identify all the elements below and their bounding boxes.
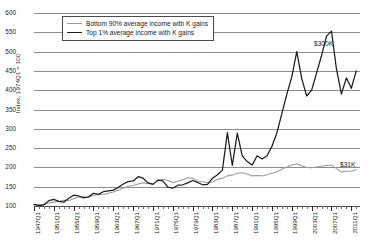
x-tick-label-1987: 1987Q1: [231, 212, 238, 234]
y-tick-label-500: 500: [0, 48, 16, 55]
y-tick-label-300: 300: [0, 125, 16, 132]
x-tick-label-1975: 1975Q1: [172, 212, 179, 234]
x-tick-1958: [89, 206, 90, 209]
y-tick-label-550: 550: [0, 29, 16, 36]
legend-item-bottom-90: Bottom 90% average income with K gains: [67, 19, 208, 28]
chart-legend: Bottom 90% average income with K gains T…: [62, 16, 214, 41]
x-tick-1987: [232, 206, 233, 211]
x-tick-1951: [54, 206, 55, 211]
x-tick-1988: [237, 206, 238, 209]
x-tick-1997: [282, 206, 283, 209]
x-tick-2006: [327, 206, 328, 209]
x-tick-1952: [59, 206, 60, 209]
series-line-bottom-90: [34, 164, 356, 205]
x-tick-2001: [302, 206, 303, 209]
x-tick-1981: [203, 206, 204, 209]
x-tick-1983: [212, 206, 213, 211]
y-axis-title: Index, 1974Q1 = 100: [14, 29, 21, 139]
y-tick-label-250: 250: [0, 144, 16, 151]
x-tick-label-1995: 1995Q1: [271, 212, 278, 234]
x-tick-label-1959: 1959Q1: [93, 212, 100, 234]
y-tick-label-350: 350: [0, 106, 16, 113]
y-tick-label-200: 200: [0, 164, 16, 171]
x-tick-1990: [247, 206, 248, 209]
x-tick-2011: [351, 206, 352, 211]
y-tick-label-100: 100: [0, 202, 16, 209]
x-tick-1973: [163, 206, 164, 209]
x-tick-1970: [148, 206, 149, 209]
annotation-300k: $300K: [314, 40, 333, 47]
y-tick-label-400: 400: [0, 87, 16, 94]
x-tick-label-1999: 1999Q1: [291, 212, 298, 234]
x-tick-1992: [257, 206, 258, 209]
x-tick-1948: [39, 206, 40, 209]
x-tick-1975: [173, 206, 174, 211]
x-tick-label-1951: 1951Q1: [53, 212, 60, 234]
x-tick-1991: [252, 206, 253, 211]
x-tick-label-1967: 1967Q1: [132, 212, 139, 234]
x-axis-ticks: [34, 206, 360, 211]
x-tick-2009: [341, 206, 342, 209]
x-tick-2000: [297, 206, 298, 209]
x-tick-1977: [183, 206, 184, 209]
x-tick-1974: [168, 206, 169, 209]
x-tick-label-1979: 1979Q1: [192, 212, 199, 234]
income-index-line-chart: Index, 1974Q1 = 100 10015020025030035040…: [0, 0, 382, 250]
x-tick-1978: [188, 206, 189, 209]
x-tick-1957: [84, 206, 85, 209]
x-tick-2007: [331, 206, 332, 211]
x-tick-1968: [138, 206, 139, 209]
x-tick-1995: [272, 206, 273, 211]
series-layer: [34, 13, 360, 206]
legend-label-bottom-90: Bottom 90% average income with K gains: [86, 20, 208, 27]
x-tick-1986: [227, 206, 228, 209]
x-tick-2004: [317, 206, 318, 209]
x-tick-1966: [128, 206, 129, 209]
x-tick-1980: [198, 206, 199, 209]
y-tick-label-150: 150: [0, 183, 16, 190]
x-tick-1972: [158, 206, 159, 209]
x-tick-2012: [356, 206, 357, 209]
legend-label-top-1: Top 1% average income with K gains: [86, 29, 194, 36]
x-tick-label-1971: 1971Q1: [152, 212, 159, 234]
x-tick-1993: [262, 206, 263, 209]
x-tick-label-2011: 2011Q1: [350, 212, 357, 234]
x-tick-1971: [153, 206, 154, 211]
x-tick-1976: [178, 206, 179, 209]
x-tick-2010: [346, 206, 347, 209]
x-tick-2003: [312, 206, 313, 211]
x-tick-1965: [123, 206, 124, 209]
x-tick-1963: [113, 206, 114, 211]
x-tick-1947: [34, 206, 35, 211]
x-tick-label-2007: 2007Q1: [331, 212, 338, 234]
x-tick-label-1955: 1955Q1: [73, 212, 80, 234]
x-tick-1962: [108, 206, 109, 209]
x-tick-1959: [93, 206, 94, 211]
legend-item-top-1: Top 1% average income with K gains: [67, 28, 208, 37]
x-tick-1949: [44, 206, 45, 209]
y-tick-label-450: 450: [0, 67, 16, 74]
x-tick-1984: [217, 206, 218, 209]
x-tick-1989: [242, 206, 243, 209]
x-tick-1955: [74, 206, 75, 211]
x-tick-1999: [292, 206, 293, 211]
x-tick-1969: [143, 206, 144, 209]
x-tick-1982: [208, 206, 209, 209]
x-tick-1994: [267, 206, 268, 209]
x-axis-tick-labels: 1947Q11951Q11955Q11959Q11963Q11967Q11971…: [34, 212, 360, 250]
x-tick-1961: [103, 206, 104, 209]
x-tick-1950: [49, 206, 50, 209]
x-tick-1996: [277, 206, 278, 209]
x-tick-label-1983: 1983Q1: [212, 212, 219, 234]
x-tick-label-1991: 1991Q1: [251, 212, 258, 234]
x-tick-2005: [322, 206, 323, 209]
legend-line-swatch-gray-icon: [67, 23, 82, 24]
x-tick-2002: [307, 206, 308, 209]
x-tick-1954: [69, 206, 70, 209]
x-tick-1953: [64, 206, 65, 209]
x-tick-1998: [287, 206, 288, 209]
x-tick-1967: [133, 206, 134, 211]
x-tick-label-1947: 1947Q1: [33, 212, 40, 234]
x-tick-1956: [79, 206, 80, 209]
y-tick-label-600: 600: [0, 9, 16, 16]
